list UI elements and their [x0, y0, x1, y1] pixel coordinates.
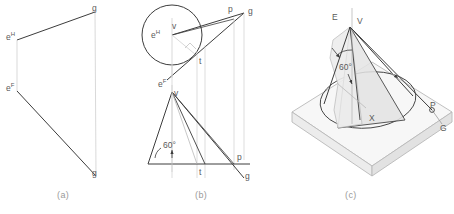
label-e-frontal-b: eF: [158, 78, 166, 89]
caption-a: (a): [57, 190, 69, 200]
label-e-frontal-a: eF: [6, 82, 14, 93]
figure-canvas: [0, 0, 454, 214]
label-E-c: E: [332, 12, 338, 22]
label-v-top-b: v: [172, 21, 176, 31]
label-v-front-b: v: [174, 88, 178, 98]
panel-c-drawing: [292, 8, 452, 176]
label-angle-60-c: 60°: [339, 62, 352, 72]
label-angle-60-b: 60°: [163, 140, 176, 150]
label-g-top-a: g: [92, 3, 97, 13]
label-e-horizontal-b: eH: [151, 29, 160, 40]
label-e-horizontal-a: eH: [6, 31, 15, 42]
label-p-top-b: p: [228, 4, 233, 14]
caption-b: (b): [195, 190, 207, 200]
label-G-c: G: [440, 123, 447, 133]
panel-a-drawing: [17, 12, 96, 176]
label-g-top-b: g: [248, 6, 253, 16]
label-t-bottom-b: t: [199, 167, 201, 177]
label-V-c: V: [357, 16, 363, 26]
label-p-bottom-b: p: [237, 152, 242, 162]
caption-c: (c): [345, 190, 357, 200]
label-P-c: P: [430, 100, 436, 110]
label-X-c: X: [369, 113, 375, 123]
label-g-bottom-b: g: [245, 171, 250, 181]
label-g-bottom-a: g: [92, 168, 97, 178]
label-t-top-b: t: [199, 56, 201, 66]
